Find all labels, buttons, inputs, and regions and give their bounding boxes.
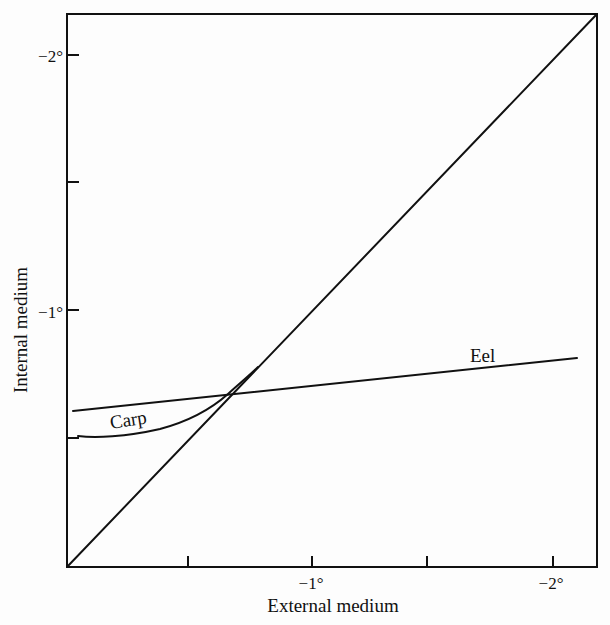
chart: −1° −2° External medium −2° −1° Internal…	[0, 0, 610, 625]
eel-line	[73, 358, 577, 411]
isosmotic-line	[67, 14, 597, 567]
carp-label: Carp	[108, 406, 148, 433]
y-axis-title: Internal medium	[10, 267, 31, 393]
x-axis-title: External medium	[267, 595, 399, 616]
y-tick-label-1: −1°	[38, 303, 63, 322]
x-tick-label-1: −1°	[299, 574, 324, 593]
x-axis-ticks	[188, 556, 553, 567]
x-tick-label-2: −2°	[539, 574, 564, 593]
y-tick-label-2: −2°	[38, 47, 63, 66]
eel-label: Eel	[470, 345, 495, 366]
y-axis-ticks	[67, 55, 79, 438]
